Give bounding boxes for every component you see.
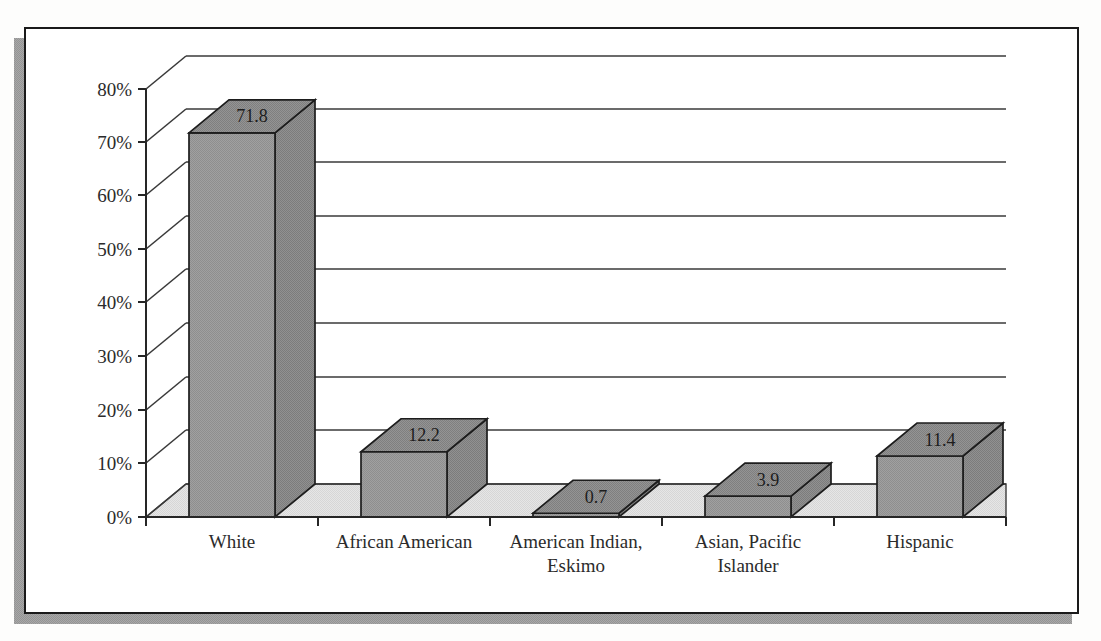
category-label-line: Hispanic <box>886 531 954 552</box>
bar-front-face <box>877 456 963 517</box>
bar-value-label: 0.7 <box>585 487 608 507</box>
bar-value-label: 71.8 <box>236 106 268 126</box>
bar-front-face <box>361 452 447 517</box>
bar-value-label: 11.4 <box>925 430 956 450</box>
bar-value-label: 12.2 <box>408 425 440 445</box>
category-label-line: Islander <box>717 555 779 576</box>
category-label-line: White <box>209 531 255 552</box>
bar-column[interactable]: 71.8 <box>189 100 315 517</box>
bar-side-face <box>275 100 315 517</box>
bar-front-face <box>189 133 275 517</box>
y-tick-label: 30% <box>97 346 132 367</box>
x-axis-category-label: White <box>209 531 255 552</box>
y-tick-label: 20% <box>97 400 132 421</box>
y-axis-tick-labels: 80% 70% 60% 50% 40% 30% 20% 10% 0% <box>97 79 132 528</box>
y-tick-label: 10% <box>97 453 132 474</box>
y-tick-label: 70% <box>97 132 132 153</box>
x-axis-category-label: Hispanic <box>886 531 954 552</box>
y-tick-label: 80% <box>97 79 132 100</box>
category-label-line: African American <box>336 531 473 552</box>
bar-chart-3d: 80% 70% 60% 50% 40% 30% 20% 10% 0% 71.81… <box>0 0 1101 641</box>
category-label-line: Asian, Pacific <box>695 531 802 552</box>
y-tick-label: 0% <box>107 507 133 528</box>
y-tick-label: 50% <box>97 239 132 260</box>
category-label-line: Eskimo <box>547 555 605 576</box>
y-tick-label: 40% <box>97 292 132 313</box>
bar-value-label: 3.9 <box>757 470 780 490</box>
screenshot-root: 80% 70% 60% 50% 40% 30% 20% 10% 0% 71.81… <box>0 0 1101 641</box>
x-axis-category-label: African American <box>336 531 473 552</box>
category-label-line: American Indian, <box>510 531 643 552</box>
y-tick-label: 60% <box>97 185 132 206</box>
bar-front-face <box>705 496 791 517</box>
